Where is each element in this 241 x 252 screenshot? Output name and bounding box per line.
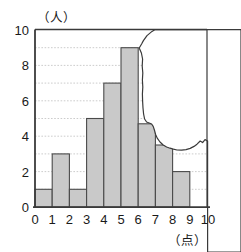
x-tick-4: 4 xyxy=(100,212,107,227)
x-tick-3: 3 xyxy=(83,212,90,227)
histogram-svg: 0 2 4 6 8 10 0 1 2 3 4 5 6 7 8 9 10 （人） … xyxy=(0,0,241,252)
bar-0-1 xyxy=(35,189,52,207)
y-tick-0: 0 xyxy=(22,200,29,215)
x-tick-10: 10 xyxy=(201,212,215,227)
bar-5-6 xyxy=(121,48,138,207)
x-tick-1: 1 xyxy=(49,212,56,227)
y-tick-10: 10 xyxy=(15,23,29,38)
bar-2-3 xyxy=(69,189,86,207)
y-axis-unit-label: （人） xyxy=(37,11,76,25)
bar-3-4 xyxy=(87,119,104,208)
bar-4-5 xyxy=(104,83,121,207)
y-tick-labels: 0 2 4 6 8 10 xyxy=(15,23,29,215)
x-tick-labels: 0 1 2 3 4 5 6 7 8 9 10 xyxy=(31,212,215,227)
x-tick-8: 8 xyxy=(169,212,176,227)
y-tick-6: 6 xyxy=(22,94,29,109)
x-tick-5: 5 xyxy=(117,212,124,227)
bar-7-8 xyxy=(155,145,172,207)
x-axis-unit-label: （点） xyxy=(168,234,207,248)
x-tick-7: 7 xyxy=(152,212,159,227)
x-tick-9: 9 xyxy=(186,212,193,227)
y-tick-2: 2 xyxy=(22,165,29,180)
y-tick-4: 4 xyxy=(22,129,29,144)
bar-6-7 xyxy=(138,124,155,207)
y-tick-8: 8 xyxy=(22,58,29,73)
x-tick-2: 2 xyxy=(66,212,73,227)
bar-1-2 xyxy=(52,154,69,207)
histogram-figure: 0 2 4 6 8 10 0 1 2 3 4 5 6 7 8 9 10 （人） … xyxy=(0,0,241,252)
bar-8-9 xyxy=(173,172,190,207)
x-tick-0: 0 xyxy=(31,212,38,227)
x-tick-6: 6 xyxy=(135,212,142,227)
